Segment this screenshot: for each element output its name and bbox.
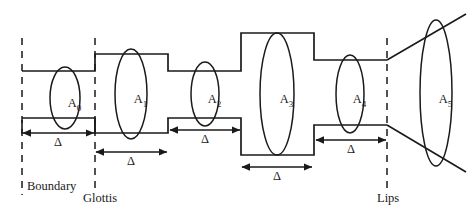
area-label-A3: A3: [268, 80, 293, 123]
area-label-A0: A0: [56, 84, 81, 127]
area-label-A1: A1: [122, 80, 147, 123]
delta-label-0: Δ: [54, 136, 62, 149]
area-label-A4: A4: [341, 80, 366, 123]
glottis-caption: Glottis: [83, 192, 117, 205]
diagram-canvas: A0 A1 A2 A3 A4 A5 Δ Δ Δ Δ Δ Boundary con…: [0, 0, 474, 221]
delta-label-3: Δ: [273, 170, 281, 183]
delta-label-4: Δ: [347, 143, 355, 156]
delta-label-1: Δ: [127, 155, 135, 168]
delta-label-2: Δ: [201, 133, 209, 146]
lips-caption: Lips: [377, 192, 399, 205]
section-ellipses: [50, 20, 452, 166]
boundary-condition-caption: Boundary condition artificial section: [27, 151, 76, 221]
area-label-A2: A2: [196, 80, 221, 123]
area-label-A5: A5: [427, 80, 452, 123]
boundary-caption-line-1: Boundary: [27, 179, 76, 193]
